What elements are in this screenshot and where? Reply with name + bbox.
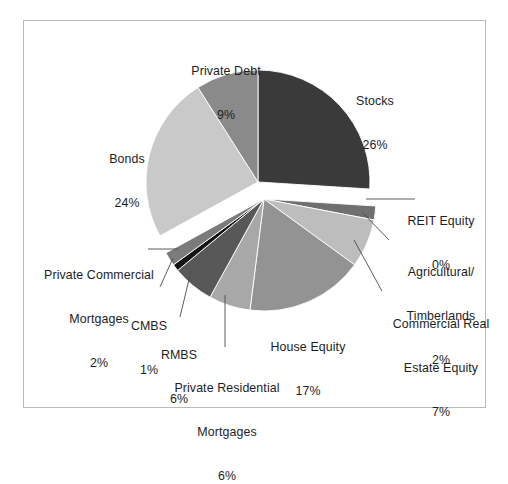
- leader-line-commercial-real-estate: [354, 240, 382, 291]
- pie-label-private-debt: Private Debt 9%: [166, 35, 286, 152]
- pie-label-bonds-value: 24%: [92, 196, 162, 211]
- pie-label-agricultural-line1: Agricultural/: [382, 265, 500, 280]
- pie-label-bonds-name: Bonds: [92, 152, 162, 167]
- pie-label-commercial-re-line1: Commercial Real: [379, 317, 503, 332]
- pie-label-commercial-re-value: 7%: [379, 405, 503, 420]
- pie-label-bonds: Bonds 24%: [92, 123, 162, 240]
- pie-label-private-commercial-mortgages: Private Commercial Mortgages 2%: [22, 239, 176, 400]
- pie-label-stocks-name: Stocks: [330, 94, 420, 109]
- pie-label-private-residential-value: 6%: [164, 469, 290, 484]
- pie-label-private-debt-name: Private Debt: [166, 64, 286, 79]
- pie-label-commercial-real-estate-equity: Commercial Real Estate Equity 7%: [379, 288, 503, 449]
- pie-label-private-commercial-value: 2%: [22, 356, 176, 371]
- pie-label-stocks-value: 26%: [330, 138, 420, 153]
- pie-label-private-debt-value: 9%: [166, 108, 286, 123]
- pie-label-private-commercial-line2: Mortgages: [22, 312, 176, 327]
- pie-label-stocks: Stocks 26%: [330, 65, 420, 182]
- pie-label-private-commercial-line1: Private Commercial: [22, 268, 176, 283]
- pie-label-commercial-re-line2: Estate Equity: [379, 361, 503, 376]
- pie-label-reit-equity-name: REIT Equity: [386, 214, 496, 229]
